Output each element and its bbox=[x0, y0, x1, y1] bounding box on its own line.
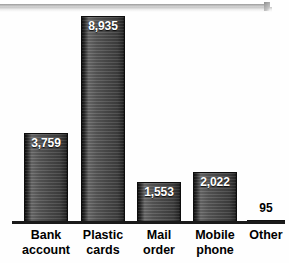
category-label-mail-order: Mail order bbox=[127, 228, 191, 258]
category-label-line1: Bank bbox=[14, 228, 78, 243]
category-label-line2: account bbox=[14, 243, 78, 258]
category-label-line1: Other bbox=[240, 228, 289, 243]
bar-value-mail-order: 1,553 bbox=[138, 186, 180, 199]
category-label-mobile-phone: Mobile phone bbox=[183, 228, 247, 258]
category-label-line1: Plastic bbox=[71, 228, 135, 243]
bar-mobile-phone: 2,022 bbox=[193, 172, 237, 224]
bar-value-other: 95 bbox=[247, 202, 285, 215]
plot-area: 3,759 8,935 1,553 2,022 95 bbox=[0, 0, 289, 224]
bar-value-plastic-cards: 8,935 bbox=[82, 20, 124, 33]
category-label-line1: Mobile bbox=[183, 228, 247, 243]
category-label-other: Other bbox=[240, 228, 289, 243]
bar-chart: 3,759 8,935 1,553 2,022 95 Bank account … bbox=[0, 0, 289, 263]
category-label-bank-account: Bank account bbox=[14, 228, 78, 258]
x-axis-line bbox=[12, 221, 285, 224]
category-labels: Bank account Plastic cards Mail order Mo… bbox=[0, 228, 289, 263]
category-label-plastic-cards: Plastic cards bbox=[71, 228, 135, 258]
category-label-line2: phone bbox=[183, 243, 247, 258]
bar-mail-order: 1,553 bbox=[137, 182, 181, 224]
bar-value-mobile-phone: 2,022 bbox=[194, 176, 236, 189]
category-label-line1: Mail bbox=[127, 228, 191, 243]
bar-bank-account: 3,759 bbox=[24, 133, 68, 224]
category-label-line2: order bbox=[127, 243, 191, 258]
bar-plastic-cards: 8,935 bbox=[81, 16, 125, 224]
category-label-line2: cards bbox=[71, 243, 135, 258]
bar-value-bank-account: 3,759 bbox=[25, 137, 67, 150]
